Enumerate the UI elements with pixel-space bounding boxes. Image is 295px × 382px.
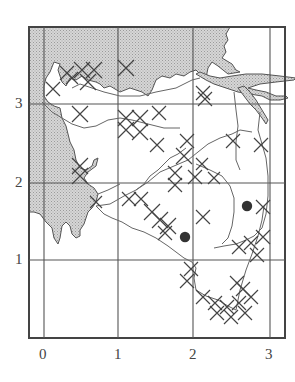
x-axis-label-3: 3 [265,347,273,362]
map-figure [0,0,295,382]
y-axis-label-1: 1 [15,252,23,267]
y-axis-label-2: 2 [15,175,23,190]
marker-site-b-icon [242,201,252,211]
x-axis-label-0: 0 [39,347,47,362]
y-axis-label-3: 3 [15,96,23,111]
x-axis-label-2: 2 [189,347,197,362]
marker-site-a-icon [180,232,190,242]
x-axis-label-1: 1 [114,347,122,362]
